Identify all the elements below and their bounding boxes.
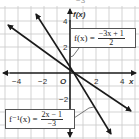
f-denominator: 2 <box>109 39 113 47</box>
origin-label: O <box>60 77 67 86</box>
x-tick-4: 4 <box>120 77 125 86</box>
x-tick-neg2: −2 <box>38 77 48 86</box>
f-inverse-fraction: 2x − 1 −3 <box>41 111 64 128</box>
f-lhs: f(x) = <box>74 34 95 43</box>
line-f-inverse <box>8 25 70 70</box>
f-inverse-equation-label: f⁻¹(x) = 2x − 1 −3 <box>5 109 75 129</box>
x-axis-label: x <box>128 77 134 86</box>
y-tick-4: 4 <box>63 17 68 26</box>
y-tick-neg2: −2 <box>59 95 69 104</box>
x-tick-neg4: −4 <box>12 77 22 86</box>
y-tick-2: 2 <box>63 43 68 52</box>
f-inverse-lhs: f⁻¹(x) = <box>9 115 38 124</box>
y-axis-label: f(x) <box>73 10 86 19</box>
f-equation-label: f(x) = −3x + 1 2 <box>70 28 136 48</box>
x-tick-2: 2 <box>94 77 99 86</box>
f-fraction: −3x + 1 2 <box>98 30 125 47</box>
f-inverse-denominator: −3 <box>48 120 57 128</box>
